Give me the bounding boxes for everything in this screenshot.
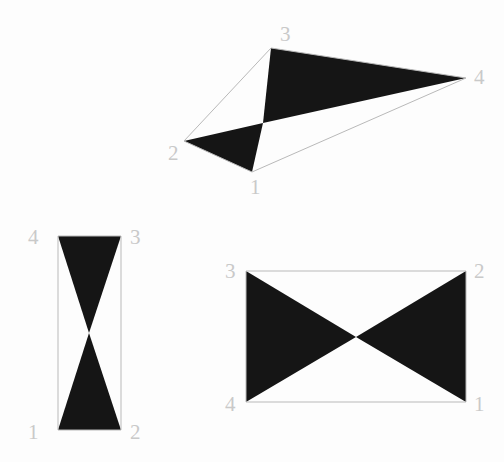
vertex-label-2: 2	[130, 420, 141, 444]
vertex-label-3: 3	[280, 22, 291, 46]
vertex-label-4: 4	[474, 65, 485, 89]
vertex-label-3: 3	[225, 259, 236, 283]
vertex-label-4: 4	[28, 225, 39, 249]
shapes-svg: 123412341234	[0, 0, 504, 462]
vertex-label-2: 2	[168, 141, 179, 165]
figure-canvas: 123412341234	[0, 0, 504, 462]
vertical-bowtie-quadrilateral-fill-2	[58, 236, 121, 333]
shapes-layer	[58, 48, 466, 430]
vertex-label-4: 4	[225, 392, 236, 416]
horizontal-bowtie-quadrilateral-fill-2	[246, 271, 356, 402]
irregular-bowtie-quadrilateral-fill-1	[184, 123, 263, 172]
irregular-bowtie-quadrilateral-fill-2	[263, 48, 466, 123]
vertex-label-2: 2	[474, 259, 485, 283]
horizontal-bowtie-quadrilateral-fill-1	[356, 271, 466, 402]
vertex-label-1: 1	[28, 420, 39, 444]
vertex-label-3: 3	[130, 225, 141, 249]
horizontal-bowtie-quadrilateral	[246, 271, 466, 402]
vertical-bowtie-quadrilateral	[58, 236, 121, 430]
vertical-bowtie-quadrilateral-fill-1	[58, 333, 121, 430]
irregular-bowtie-quadrilateral	[184, 48, 466, 172]
vertex-label-1: 1	[474, 392, 485, 416]
vertex-label-1: 1	[250, 175, 261, 199]
